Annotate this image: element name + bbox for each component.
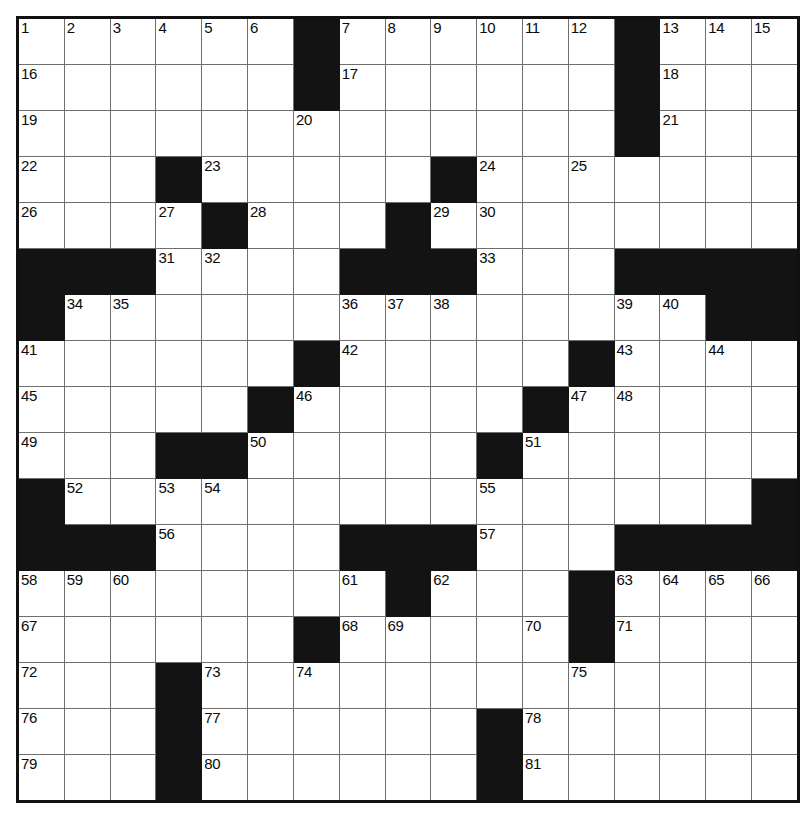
grid-cell[interactable]	[706, 755, 752, 802]
grid-cell[interactable]	[110, 479, 156, 525]
grid-cell[interactable]	[706, 65, 752, 111]
grid-cell[interactable]: 59	[64, 571, 110, 617]
grid-cell[interactable]	[522, 341, 568, 387]
grid-cell[interactable]: 71	[614, 617, 660, 663]
grid-cell[interactable]	[660, 617, 706, 663]
grid-cell[interactable]: 36	[339, 295, 385, 341]
grid-cell[interactable]	[385, 755, 431, 802]
grid-cell[interactable]: 1	[18, 18, 65, 65]
grid-cell[interactable]: 11	[522, 18, 568, 65]
grid-cell[interactable]	[568, 295, 614, 341]
grid-cell[interactable]	[110, 755, 156, 802]
grid-cell[interactable]	[752, 709, 799, 755]
grid-cell[interactable]	[339, 709, 385, 755]
grid-cell[interactable]: 4	[156, 18, 202, 65]
grid-cell[interactable]: 9	[431, 18, 477, 65]
grid-cell[interactable]	[64, 617, 110, 663]
grid-cell[interactable]	[660, 755, 706, 802]
grid-cell[interactable]	[568, 709, 614, 755]
grid-cell[interactable]	[522, 203, 568, 249]
grid-cell[interactable]	[64, 709, 110, 755]
grid-cell[interactable]: 12	[568, 18, 614, 65]
grid-cell[interactable]	[568, 479, 614, 525]
grid-cell[interactable]	[477, 341, 523, 387]
grid-cell[interactable]	[385, 387, 431, 433]
grid-cell[interactable]	[660, 433, 706, 479]
grid-cell[interactable]	[431, 65, 477, 111]
grid-cell[interactable]	[339, 755, 385, 802]
grid-cell[interactable]	[752, 341, 799, 387]
grid-cell[interactable]	[293, 709, 339, 755]
grid-cell[interactable]	[248, 249, 294, 295]
grid-cell[interactable]: 78	[522, 709, 568, 755]
grid-cell[interactable]	[522, 525, 568, 571]
grid-cell[interactable]: 35	[110, 295, 156, 341]
grid-cell[interactable]	[706, 203, 752, 249]
grid-cell[interactable]	[660, 203, 706, 249]
grid-cell[interactable]: 43	[614, 341, 660, 387]
grid-cell[interactable]: 27	[156, 203, 202, 249]
grid-cell[interactable]	[293, 571, 339, 617]
grid-cell[interactable]: 63	[614, 571, 660, 617]
grid-cell[interactable]: 60	[110, 571, 156, 617]
grid-cell[interactable]: 10	[477, 18, 523, 65]
grid-cell[interactable]: 61	[339, 571, 385, 617]
grid-cell[interactable]	[431, 479, 477, 525]
grid-cell[interactable]	[614, 157, 660, 203]
grid-cell[interactable]: 29	[431, 203, 477, 249]
grid-cell[interactable]: 51	[522, 433, 568, 479]
grid-cell[interactable]	[385, 433, 431, 479]
crossword-grid[interactable]: 1234567891011121314151617181920212223242…	[16, 16, 800, 803]
grid-cell[interactable]: 32	[202, 249, 248, 295]
grid-cell[interactable]	[64, 433, 110, 479]
grid-cell[interactable]	[385, 341, 431, 387]
grid-cell[interactable]	[431, 755, 477, 802]
grid-cell[interactable]	[431, 341, 477, 387]
grid-cell[interactable]: 44	[706, 341, 752, 387]
grid-cell[interactable]: 62	[431, 571, 477, 617]
grid-cell[interactable]	[202, 65, 248, 111]
grid-cell[interactable]	[248, 663, 294, 709]
grid-cell[interactable]: 53	[156, 479, 202, 525]
grid-cell[interactable]	[156, 111, 202, 157]
grid-cell[interactable]: 25	[568, 157, 614, 203]
grid-cell[interactable]	[477, 663, 523, 709]
grid-cell[interactable]	[522, 663, 568, 709]
grid-cell[interactable]	[248, 295, 294, 341]
grid-cell[interactable]: 81	[522, 755, 568, 802]
grid-cell[interactable]: 20	[293, 111, 339, 157]
grid-cell[interactable]	[248, 479, 294, 525]
grid-cell[interactable]	[293, 295, 339, 341]
grid-cell[interactable]: 33	[477, 249, 523, 295]
grid-cell[interactable]: 41	[18, 341, 65, 387]
grid-cell[interactable]: 30	[477, 203, 523, 249]
grid-cell[interactable]	[568, 111, 614, 157]
grid-cell[interactable]: 39	[614, 295, 660, 341]
grid-cell[interactable]: 73	[202, 663, 248, 709]
grid-cell[interactable]: 14	[706, 18, 752, 65]
grid-cell[interactable]	[614, 479, 660, 525]
grid-cell[interactable]	[248, 65, 294, 111]
grid-cell[interactable]	[614, 755, 660, 802]
grid-cell[interactable]: 3	[110, 18, 156, 65]
grid-cell[interactable]	[248, 617, 294, 663]
grid-cell[interactable]	[64, 203, 110, 249]
grid-cell[interactable]	[568, 203, 614, 249]
grid-cell[interactable]	[293, 249, 339, 295]
grid-cell[interactable]	[431, 663, 477, 709]
grid-cell[interactable]: 18	[660, 65, 706, 111]
grid-cell[interactable]: 52	[64, 479, 110, 525]
grid-cell[interactable]	[522, 157, 568, 203]
grid-cell[interactable]: 58	[18, 571, 65, 617]
grid-cell[interactable]	[248, 111, 294, 157]
grid-cell[interactable]: 47	[568, 387, 614, 433]
grid-cell[interactable]	[293, 479, 339, 525]
grid-cell[interactable]	[64, 111, 110, 157]
grid-cell[interactable]	[752, 663, 799, 709]
grid-cell[interactable]	[706, 433, 752, 479]
grid-cell[interactable]	[202, 617, 248, 663]
grid-cell[interactable]	[522, 111, 568, 157]
grid-cell[interactable]	[477, 111, 523, 157]
grid-cell[interactable]	[752, 111, 799, 157]
grid-cell[interactable]: 65	[706, 571, 752, 617]
